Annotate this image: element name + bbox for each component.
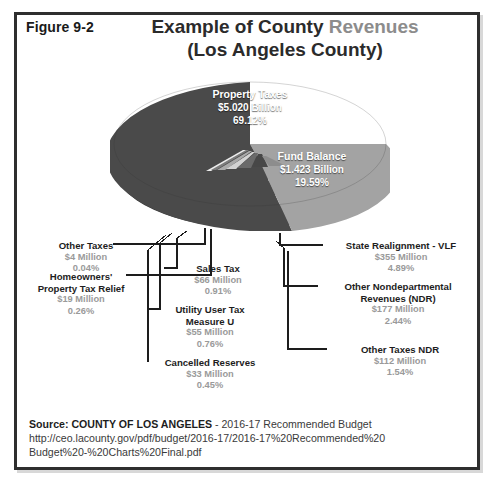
callout-other-tax-ndr-amount: $112 Million bbox=[330, 356, 470, 368]
figure-container: Figure 9-2 Example of County Revenues (L… bbox=[0, 0, 498, 483]
callout-utility-user-tax: Utility User Tax Measure U $55 Million 0… bbox=[152, 304, 268, 350]
callout-other-taxes-ndr: Other Taxes NDR $112 Million 1.54% bbox=[330, 344, 470, 379]
callout-utility-amount: $55 Million bbox=[152, 327, 268, 339]
callout-state-realign-pct: 4.89% bbox=[326, 263, 476, 275]
callout-homeowners-property-tax-relief: Homeowners' Property Tax Relief $19 Mill… bbox=[16, 271, 146, 317]
callout-sales-tax-amount: $66 Million bbox=[168, 275, 268, 287]
pie-label-property-taxes-amount: $5.020 Billion bbox=[218, 102, 282, 113]
pie-chart: Property Taxes $5.020 Billion 69.12% Fun… bbox=[110, 66, 390, 231]
chart-title-line2: (Los Angeles County) bbox=[187, 39, 383, 60]
source-mid: - 2016-17 Recommended Budget bbox=[212, 418, 372, 430]
chart-title-line1-dark: Example of County bbox=[151, 16, 328, 37]
callout-other-taxes: Other Taxes $4 Million 0.04% bbox=[26, 240, 146, 275]
callout-homeowners-name-line1: Homeowners' bbox=[16, 271, 146, 283]
callout-homeowners-name-line2: Property Tax Relief bbox=[16, 283, 146, 295]
callout-utility-name-line1: Utility User Tax bbox=[152, 304, 268, 316]
callout-other-taxes-name: Other Taxes bbox=[26, 240, 146, 252]
callout-cancelled-amount: $33 Million bbox=[152, 369, 268, 381]
pie-label-property-taxes: Property Taxes $5.020 Billion 69.12% bbox=[170, 88, 330, 128]
callout-utility-pct: 0.76% bbox=[152, 339, 268, 351]
callout-utility-name-line2: Measure U bbox=[152, 316, 268, 328]
callout-state-realign-name: State Realignment - VLF bbox=[326, 240, 476, 252]
source-url-line1: http://ceo.lacounty.gov/pdf/budget/2016-… bbox=[29, 431, 459, 445]
callout-cancelled-name: Cancelled Reserves bbox=[152, 357, 268, 369]
chart-title: Example of County Revenues (Los Angeles … bbox=[120, 15, 450, 61]
callout-other-taxes-amount: $4 Million bbox=[26, 252, 146, 264]
callout-other-tax-ndr-name: Other Taxes NDR bbox=[330, 344, 470, 356]
source-lead: Source: COUNTY OF LOS ANGELES bbox=[29, 418, 212, 430]
callout-homeowners-pct: 0.26% bbox=[16, 306, 146, 318]
pie-label-fund-balance: Fund Balance $1.423 Billion 19.59% bbox=[238, 150, 386, 190]
callout-sales-tax: Sales Tax $66 Million 0.91% bbox=[168, 263, 268, 298]
callout-other-nondepartmental-revenues: Other Nondepartmental Revenues (NDR) $17… bbox=[322, 281, 474, 327]
pie-label-property-taxes-name: Property Taxes bbox=[212, 88, 287, 100]
callout-state-realignment-vlf: State Realignment - VLF $355 Million 4.8… bbox=[326, 240, 476, 275]
callout-sales-tax-name: Sales Tax bbox=[168, 263, 268, 275]
source-note: Source: COUNTY OF LOS ANGELES - 2016-17 … bbox=[29, 417, 459, 459]
callout-cancelled-pct: 0.45% bbox=[152, 380, 268, 392]
chart-title-line1-light: Revenues bbox=[329, 16, 419, 37]
callout-other-ndr-name-line2: Revenues (NDR) bbox=[322, 293, 474, 305]
callout-sales-tax-pct: 0.91% bbox=[168, 286, 268, 298]
callout-other-tax-ndr-pct: 1.54% bbox=[330, 367, 470, 379]
pie-label-property-taxes-pct: 69.12% bbox=[233, 115, 267, 126]
callout-other-ndr-amount: $177 Million bbox=[322, 304, 474, 316]
callout-cancelled-reserves: Cancelled Reserves $33 Million 0.45% bbox=[152, 357, 268, 392]
pie-label-fund-balance-pct: 19.59% bbox=[295, 177, 329, 188]
pie-label-fund-balance-name: Fund Balance bbox=[278, 150, 347, 162]
callout-other-ndr-name-line1: Other Nondepartmental bbox=[322, 281, 474, 293]
callout-state-realign-amount: $355 Million bbox=[326, 252, 476, 264]
source-url-line2: Budget%20-%20Charts%20Final.pdf bbox=[29, 445, 459, 459]
callout-other-ndr-pct: 2.44% bbox=[322, 316, 474, 328]
figure-number-label: Figure 9-2 bbox=[26, 19, 94, 35]
callout-homeowners-amount: $19 Million bbox=[16, 294, 146, 306]
pie-label-fund-balance-amount: $1.423 Billion bbox=[280, 164, 344, 175]
